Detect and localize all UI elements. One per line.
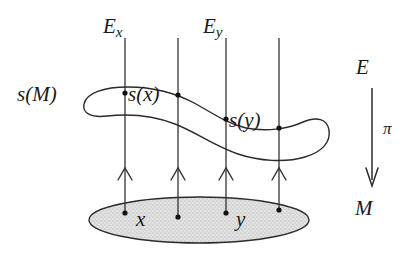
base-point-unlabeled-2: [276, 207, 281, 212]
base-point-unlabeled-1: [175, 214, 180, 219]
projection-label: π: [383, 120, 392, 137]
fiber-label-Ex-sub: x: [116, 24, 123, 40]
base-space-ellipse: [89, 197, 309, 243]
fiber-arrowheads: [118, 168, 286, 180]
section-point-sy: [223, 116, 228, 121]
section-point-unlabeled-2: [276, 125, 281, 130]
projection-arrow: [366, 88, 378, 186]
section-point-unlabeled-1: [175, 92, 180, 97]
base-point-x-label: x: [136, 209, 145, 230]
section-at-y-label: s(y): [229, 110, 260, 131]
fiber-label-Ex: Ex: [103, 16, 123, 40]
fiber-label-Ey: Ey: [203, 16, 223, 40]
section-at-x-label: s(x): [128, 84, 159, 105]
base-point-y-label: y: [236, 209, 245, 230]
base-space-label: M: [355, 198, 373, 219]
base-point-y: [223, 210, 228, 215]
fiber-label-Ey-sub: y: [216, 24, 223, 40]
fiber-label-Ey-base: E: [203, 14, 216, 38]
section-image-label: s(M): [17, 84, 57, 105]
fiber-label-Ex-base: E: [103, 14, 116, 38]
base-point-x: [122, 210, 127, 215]
section-point-sx: [122, 90, 127, 95]
total-space-label: E: [356, 57, 369, 78]
section-image-band: [84, 87, 330, 161]
figure-canvas: Ex Ey s(M) s(x) s(y) x y E π M: [0, 0, 412, 254]
